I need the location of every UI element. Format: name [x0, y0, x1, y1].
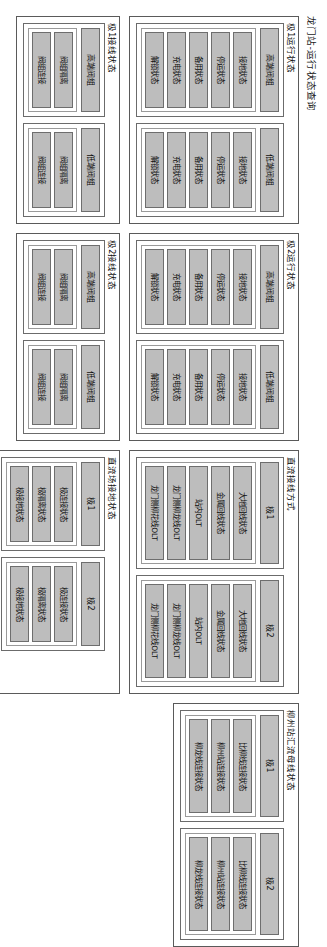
status-tile-list: 比柳线连接状态柳州站连接状态柳龙线连接状态 [185, 833, 256, 935]
subgroup-dc-yard-grounding-2: 极2极连接状态极隔离状态极接地状态 [1, 557, 105, 651]
panel-column-4: 柳州站汇流母线状态极1比柳线连接状态柳州站连接状态柳龙线连接状态极2比柳线连接状… [7, 703, 299, 947]
status-tile[interactable]: 阀组连接 [32, 249, 51, 325]
subgroup-header[interactable]: 低端阀组 [81, 128, 100, 212]
status-tile[interactable]: 柳龙线连接状态 [189, 837, 208, 931]
subgroup-header[interactable]: 低端阀组 [81, 345, 100, 429]
subgroup-header[interactable]: 高端阀组 [260, 28, 279, 112]
status-tile-list: 比柳线连接状态柳州站连接状态柳龙线连接状态 [185, 715, 256, 817]
group-title-dc-wiring-mode: 直流接线方式 [286, 457, 296, 511]
status-tile[interactable]: 阀组隔离 [54, 132, 73, 208]
status-tile[interactable]: 龙门侧柳花线OLT [145, 466, 164, 560]
status-tile[interactable]: 比柳线连接状态 [233, 837, 252, 931]
status-tile[interactable]: 解锁状态 [145, 132, 164, 208]
subgroup-pole2-operation-1: 高端阀组接地状态停运状态备用状态充电状态解锁状态 [136, 240, 284, 334]
status-tile[interactable]: 阀组隔离 [54, 32, 73, 108]
status-tile[interactable]: 备用状态 [189, 349, 208, 425]
group-pole2-wiring: 极2接线状态高端阀组阀组隔离阀组连接低端阀组阀组隔离阀组连接 [16, 233, 120, 441]
group-body: 极1大地回线状态金属回线状态站内OLT龙门侧柳龙线OLT龙门侧柳花线OLT极2大… [136, 457, 284, 687]
status-tile[interactable]: 解锁状态 [145, 32, 164, 108]
group-pole2-operation: 极2运行状态高端阀组接地状态停运状态备用状态充电状态解锁状态低端阀组接地状态停运… [129, 233, 299, 441]
subgroup-header[interactable]: 极1 [260, 462, 279, 564]
group-body: 高端阀组接地状态停运状态备用状态充电状态解锁状态低端阀组接地状态停运状态备用状态… [136, 240, 284, 434]
group-body: 极1比柳线连接状态柳州站连接状态柳龙线连接状态极2比柳线连接状态柳州站连接状态柳… [180, 710, 284, 940]
status-tile[interactable]: 极连接状态 [54, 466, 73, 542]
subgroup-pole2-operation-2: 低端阀组接地状态停运状态备用状态充电状态解锁状态 [136, 340, 284, 434]
subgroup-liuzhou-busbar-1: 极1比柳线连接状态柳州站连接状态柳龙线连接状态 [180, 710, 284, 822]
status-tile[interactable]: 龙门侧柳花线OLT [145, 584, 164, 678]
status-tile[interactable]: 柳州站连接状态 [211, 837, 230, 931]
status-tile[interactable]: 接地状态 [233, 349, 252, 425]
group-title-pole1-wiring: 极1接线状态 [107, 23, 117, 73]
status-tile[interactable]: 备用状态 [189, 132, 208, 208]
status-tile[interactable]: 金属回线状态 [211, 584, 230, 678]
group-body: 极1极连接状态极隔离状态极接地状态极2极连接状态极隔离状态极接地状态 [1, 457, 105, 687]
subgroup-dc-wiring-mode-1: 极1大地回线状态金属回线状态站内OLT龙门侧柳龙线OLT龙门侧柳花线OLT [136, 457, 284, 569]
subgroup-header[interactable]: 低端阀组 [260, 128, 279, 212]
status-tile[interactable]: 金属回线状态 [211, 466, 230, 560]
status-tile[interactable]: 接地状态 [233, 32, 252, 108]
group-title-dc-yard-grounding: 直流场接地状态 [107, 457, 117, 520]
status-tile-list: 阀组隔离阀组连接 [28, 28, 77, 112]
status-tile[interactable]: 阀组连接 [32, 32, 51, 108]
status-tile[interactable]: 极隔离状态 [32, 566, 51, 642]
status-tile-list: 接地状态停运状态备用状态充电状态解锁状态 [141, 28, 256, 112]
status-tile[interactable]: 解锁状态 [145, 349, 164, 425]
status-tile[interactable]: 比柳线连接状态 [233, 719, 252, 813]
subgroup-header[interactable]: 极2 [260, 833, 279, 935]
status-tile[interactable]: 龙门侧柳龙线OLT [167, 584, 186, 678]
status-tile[interactable]: 停运状态 [211, 349, 230, 425]
status-tile[interactable]: 接地状态 [233, 132, 252, 208]
group-title-pole2-wiring: 极2接线状态 [107, 240, 117, 290]
status-tile[interactable]: 停运状态 [211, 32, 230, 108]
subgroup-pole1-wiring-2: 低端阀组阀组隔离阀组连接 [23, 123, 105, 217]
status-tile[interactable]: 解锁状态 [145, 249, 164, 325]
panel-column-3: 直流接线方式极1大地回线状态金属回线状态站内OLT龙门侧柳龙线OLT龙门侧柳花线… [7, 450, 299, 694]
status-tile[interactable]: 阀组连接 [32, 132, 51, 208]
status-tile[interactable]: 极接地状态 [10, 566, 29, 642]
subgroup-header[interactable]: 极2 [260, 580, 279, 682]
subgroup-header[interactable]: 高端阀组 [81, 28, 100, 112]
panel-column-2: 极2运行状态高端阀组接地状态停运状态备用状态充电状态解锁状态低端阀组接地状态停运… [7, 233, 299, 441]
subgroup-liuzhou-busbar-2: 极2比柳线连接状态柳州站连接状态柳龙线连接状态 [180, 828, 284, 940]
status-tile-list: 阀组隔离阀组连接 [28, 128, 77, 212]
status-tile[interactable]: 极隔离状态 [32, 466, 51, 542]
status-tile[interactable]: 备用状态 [189, 32, 208, 108]
status-tile[interactable]: 充电状态 [167, 249, 186, 325]
status-tile[interactable]: 备用状态 [189, 249, 208, 325]
status-tile-list: 阀组隔离阀组连接 [28, 345, 77, 429]
subgroup-header[interactable]: 低端阀组 [260, 345, 279, 429]
status-tile[interactable]: 站内OLT [189, 584, 208, 678]
status-tile[interactable]: 极连接状态 [54, 566, 73, 642]
status-tile[interactable]: 大地回线状态 [233, 466, 252, 560]
subgroup-pole1-wiring-1: 高端阀组阀组隔离阀组连接 [23, 23, 105, 117]
status-tile-list: 接地状态停运状态备用状态充电状态解锁状态 [141, 345, 256, 429]
status-tile-list: 极连接状态极隔离状态极接地状态 [6, 462, 77, 546]
status-tile[interactable]: 站内OLT [189, 466, 208, 560]
subgroup-header[interactable]: 极1 [260, 715, 279, 817]
subgroup-pole2-wiring-1: 高端阀组阀组隔离阀组连接 [23, 240, 105, 334]
status-tile-list: 接地状态停运状态备用状态充电状态解锁状态 [141, 128, 256, 212]
status-tile[interactable]: 阀组隔离 [54, 349, 73, 425]
subgroup-pole2-wiring-2: 低端阀组阀组隔离阀组连接 [23, 340, 105, 434]
status-tile[interactable]: 龙门侧柳龙线OLT [167, 466, 186, 560]
status-tile[interactable]: 停运状态 [211, 132, 230, 208]
subgroup-header[interactable]: 极2 [81, 562, 100, 646]
subgroup-header[interactable]: 高端阀组 [260, 245, 279, 329]
group-body: 高端阀组阀组隔离阀组连接低端阀组阀组隔离阀组连接 [23, 240, 105, 434]
status-tile-list: 大地回线状态金属回线状态站内OLT龙门侧柳龙线OLT龙门侧柳花线OLT [141, 580, 256, 682]
status-tile[interactable]: 柳龙线连接状态 [189, 719, 208, 813]
subgroup-header[interactable]: 高端阀组 [81, 245, 100, 329]
status-tile[interactable]: 停运状态 [211, 249, 230, 325]
status-tile[interactable]: 充电状态 [167, 32, 186, 108]
group-pole1-operation: 极1运行状态高端阀组接地状态停运状态备用状态充电状态解锁状态低端阀组接地状态停运… [129, 16, 299, 224]
status-tile[interactable]: 柳州站连接状态 [211, 719, 230, 813]
subgroup-header[interactable]: 极1 [81, 462, 100, 546]
status-tile[interactable]: 充电状态 [167, 132, 186, 208]
status-tile[interactable]: 大地回线状态 [233, 584, 252, 678]
status-tile[interactable]: 充电状态 [167, 349, 186, 425]
status-tile[interactable]: 极接地状态 [10, 466, 29, 542]
status-tile-list: 接地状态停运状态备用状态充电状态解锁状态 [141, 245, 256, 329]
status-tile[interactable]: 接地状态 [233, 249, 252, 325]
status-tile[interactable]: 阀组连接 [32, 349, 51, 425]
status-tile[interactable]: 阀组隔离 [54, 249, 73, 325]
